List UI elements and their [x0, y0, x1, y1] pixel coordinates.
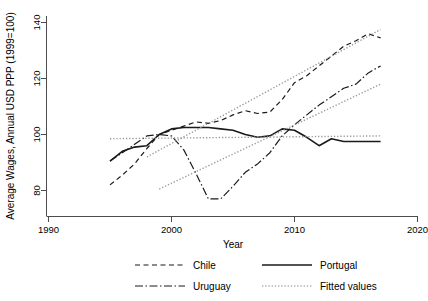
plot-axes: 140 120 100 80 1990 2000 2010 2020 Avera…: [5, 12, 428, 250]
series-line-uruguay: [110, 66, 381, 199]
y-tick-label-80: 80: [31, 185, 42, 196]
y-axis-ticks: [41, 23, 47, 191]
x-axis-title: Year: [223, 239, 244, 250]
y-tick-label-120: 120: [31, 71, 42, 87]
line-chart-canvas: 140 120 100 80 1990 2000 2010 2020 Avera…: [0, 0, 428, 301]
x-tick-labels: 1990 2000 2010 2020: [38, 224, 428, 235]
legend-label-portugal: Portugal: [320, 260, 357, 271]
series-line-chile: [110, 34, 381, 185]
y-axis-title: Average Wages, Annual USD PPP (1999=100): [5, 12, 16, 219]
y-tick-labels: 140 120 100 80: [31, 15, 42, 196]
legend-item-uruguay[interactable]: Uruguay: [135, 281, 231, 292]
series-line-portugal: [110, 128, 381, 162]
x-tick-label-1990: 1990: [38, 224, 59, 235]
chart-figure: 140 120 100 80 1990 2000 2010 2020 Avera…: [0, 0, 428, 301]
legend-label-uruguay: Uruguay: [193, 281, 231, 292]
data-series-group: [110, 30, 381, 199]
legend-item-portugal[interactable]: Portugal: [262, 260, 357, 271]
legend-label-chile: Chile: [193, 260, 216, 271]
x-tick-label-2010: 2010: [284, 224, 305, 235]
series-line-fitted-values-portugal: [110, 136, 381, 139]
x-tick-label-2000: 2000: [161, 224, 182, 235]
y-tick-label-140: 140: [31, 15, 42, 31]
x-axis-ticks: [49, 217, 418, 223]
legend: Chile Portugal Uruguay Fitted values: [135, 260, 377, 292]
legend-item-chile[interactable]: Chile: [135, 260, 216, 271]
x-tick-label-2020: 2020: [407, 224, 428, 235]
legend-item-fitted-values[interactable]: Fitted values: [262, 281, 377, 292]
legend-label-fitted-values: Fitted values: [320, 281, 377, 292]
y-tick-label-100: 100: [31, 127, 42, 143]
